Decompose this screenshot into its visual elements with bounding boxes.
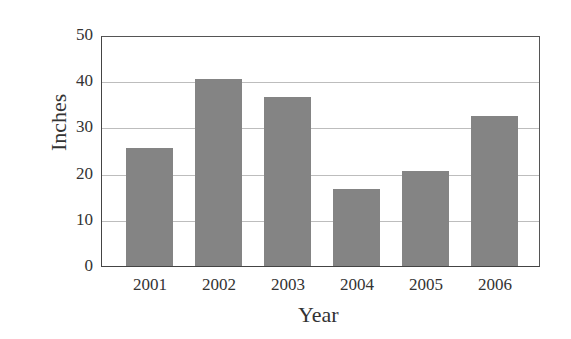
bar-2006 (471, 116, 518, 267)
x-tick-label: 2002 (189, 275, 249, 295)
x-tick-label: 2001 (120, 275, 180, 295)
y-tick-label: 0 (53, 256, 93, 276)
x-tick-label: 2006 (465, 275, 525, 295)
bar-2001 (126, 148, 173, 267)
bar-2002 (195, 79, 242, 267)
y-tick-label: 20 (53, 164, 93, 184)
x-tick-label: 2003 (258, 275, 318, 295)
x-axis-label: Year (298, 302, 339, 328)
gridline (102, 82, 539, 83)
x-tick-label: 2005 (396, 275, 456, 295)
y-tick-label: 50 (53, 25, 93, 45)
y-tick-label: 40 (53, 71, 93, 91)
y-tick-label: 10 (53, 210, 93, 230)
bar-2005 (402, 171, 449, 267)
x-tick-label: 2004 (327, 275, 387, 295)
bar-2004 (333, 189, 380, 266)
y-tick-label: 30 (53, 117, 93, 137)
bar-2003 (264, 97, 311, 266)
plot-area (101, 36, 540, 267)
bar-chart: Inches Year 0102030405020012002200320042… (0, 0, 571, 339)
